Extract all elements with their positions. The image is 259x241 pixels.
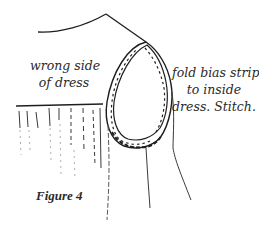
fold-instruction-label: fold bias strip to inside dress. Stitch. — [172, 64, 256, 115]
fold-instruction-line-3: dress. Stitch. — [172, 98, 256, 115]
wrong-side-label-line-2: of dress — [30, 74, 98, 91]
wrong-side-label: wrong side of dress — [30, 57, 98, 91]
armhole-outer-edge — [106, 42, 172, 148]
fold-instruction-line-1: fold bias strip — [172, 64, 256, 81]
faint-gather-lines — [20, 124, 75, 180]
side-seam-left — [107, 126, 109, 220]
armhole-drawing — [0, 0, 259, 241]
fold-instruction-line-2: to inside — [172, 81, 256, 98]
shoulder-seam-line — [106, 14, 146, 42]
figure-caption: Figure 4 — [36, 188, 83, 204]
skirt-waist-line — [16, 104, 103, 106]
neckline-line — [38, 14, 106, 32]
stitch-line — [111, 48, 164, 144]
wrong-side-label-line-1: wrong side — [30, 57, 98, 74]
center-seam — [146, 148, 150, 208]
sewing-illustration: wrong side of dress fold bias strip to i… — [0, 0, 259, 241]
